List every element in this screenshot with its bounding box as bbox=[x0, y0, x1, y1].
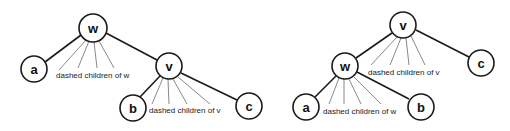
node-a: a bbox=[293, 94, 319, 120]
node-w: w bbox=[79, 14, 107, 42]
node-v: v bbox=[390, 12, 416, 38]
fan-children-v bbox=[152, 77, 210, 104]
node-c: c bbox=[468, 50, 494, 76]
fan-label-w: dashed children of w bbox=[323, 107, 397, 116]
edge-w-a bbox=[45, 35, 81, 62]
svg-text:a: a bbox=[30, 62, 38, 77]
node-b: b bbox=[408, 94, 434, 120]
fan-children-v bbox=[371, 36, 425, 65]
svg-text:w: w bbox=[339, 59, 351, 74]
node-w: w bbox=[332, 53, 358, 79]
edge-v-c bbox=[416, 30, 469, 57]
svg-text:w: w bbox=[87, 21, 99, 36]
edge-w-v bbox=[106, 33, 157, 60]
edge-v-w bbox=[356, 33, 392, 58]
svg-text:a: a bbox=[302, 100, 310, 115]
svg-text:v: v bbox=[399, 18, 407, 33]
svg-text:c: c bbox=[245, 99, 252, 114]
svg-text:v: v bbox=[165, 59, 173, 74]
svg-text:c: c bbox=[477, 56, 484, 71]
svg-text:b: b bbox=[417, 100, 425, 115]
tree-rotation-diagram: w a v b c dashed children of w dashed ch… bbox=[0, 0, 510, 131]
fan-label-w: dashed children of w bbox=[56, 71, 130, 80]
node-v: v bbox=[156, 53, 182, 79]
svg-text:b: b bbox=[129, 101, 137, 116]
fan-label-v: dashed children of v bbox=[368, 68, 440, 77]
fan-label-v: dashed children of v bbox=[149, 106, 221, 115]
node-c: c bbox=[236, 93, 262, 119]
right-tree: v w c a b dashed children of v dashed ch… bbox=[293, 12, 494, 120]
edge-v-b bbox=[140, 76, 160, 97]
node-b: b bbox=[120, 95, 146, 121]
node-a: a bbox=[21, 56, 47, 82]
left-tree: w a v b c dashed children of w dashed ch… bbox=[21, 14, 262, 121]
